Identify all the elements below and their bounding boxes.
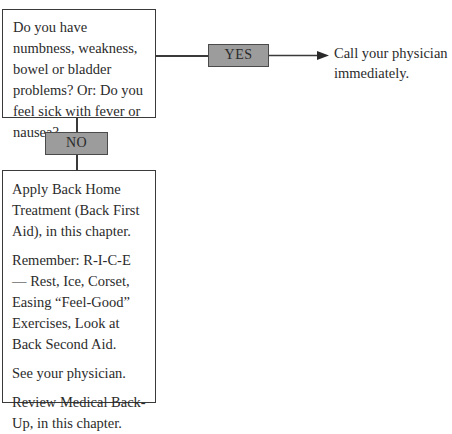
question-text: Do you have numbness, weakness, bowel or… (13, 17, 147, 143)
connector-no-to-actions (76, 155, 78, 170)
no-label: NO (45, 132, 108, 155)
action-item: Apply Back Home Treatment (Back First Ai… (12, 179, 147, 242)
action-box: Apply Back Home Treatment (Back First Ai… (2, 170, 156, 403)
question-box: Do you have numbness, weakness, bowel or… (2, 9, 156, 118)
connector-question-to-no (76, 118, 78, 132)
arrow-head-icon (317, 51, 329, 60)
action-item: Remember: R-I-C-E — Rest, Ice, Corset, E… (12, 250, 147, 355)
yes-label: YES (208, 44, 269, 67)
action-item: See your physician. (12, 363, 147, 384)
action-item: Review Medical Back-Up, in this chapter. (12, 392, 147, 434)
yes-result-text: Call your physician immediately. (334, 43, 452, 83)
connector-question-to-yes (156, 55, 208, 57)
arrow-yes-to-result (269, 49, 331, 63)
